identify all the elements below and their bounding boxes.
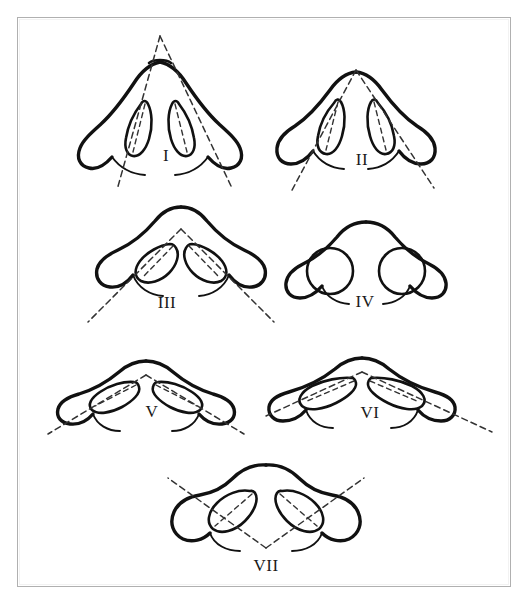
figure-5-label: V bbox=[146, 402, 159, 422]
figure-6-label: VI bbox=[361, 403, 380, 423]
figure-6-left-sill bbox=[306, 410, 333, 428]
nostril-diagram-canvas: .ink { fill:none; stroke:#111111; stroke… bbox=[0, 0, 530, 605]
figure-1-right-sill bbox=[175, 157, 208, 175]
figure-1-left-sill bbox=[112, 157, 145, 175]
figure-1-left-axis-line bbox=[117, 36, 160, 190]
figure-3-left-nostril bbox=[136, 244, 178, 283]
figure-4-left-outer-contour bbox=[286, 222, 366, 298]
figure-1-right-outer-contour bbox=[160, 62, 242, 168]
figure-5-left-outer-contour bbox=[58, 361, 146, 424]
figure-5-right-sill bbox=[172, 414, 199, 431]
figure-2-nostril-diagram bbox=[277, 70, 435, 192]
figure-6-right-sill bbox=[391, 410, 418, 428]
figure-1-label: I bbox=[163, 146, 169, 166]
figure-2-left-axis-line bbox=[291, 70, 356, 192]
figure-3-right-nostril bbox=[184, 244, 226, 283]
figure-7-right-sill bbox=[292, 533, 322, 551]
figure-6-left-outer-contour bbox=[269, 358, 362, 421]
figure-2-left-nostril bbox=[317, 99, 344, 154]
figure-2-label: II bbox=[356, 150, 368, 170]
figure-5-nostril-diagram bbox=[48, 361, 244, 434]
figure-5-left-axis-line bbox=[48, 375, 146, 434]
figure-7-left-sill bbox=[210, 533, 240, 551]
figure-6-left-nostril bbox=[299, 378, 356, 409]
figure-plate: .ink { fill:none; stroke:#111111; stroke… bbox=[0, 0, 530, 605]
figure-7-nostril-diagram bbox=[168, 465, 364, 551]
figure-4-right-nostril bbox=[379, 248, 425, 294]
figure-4-right-outer-contour bbox=[366, 222, 446, 298]
figure-3-label: III bbox=[158, 293, 176, 313]
figure-3-nostril-diagram bbox=[88, 207, 274, 322]
figure-5-right-axis-line bbox=[146, 375, 244, 434]
figure-1-right-nostril bbox=[168, 101, 194, 156]
figure-1-nostril-diagram bbox=[78, 36, 241, 190]
figure-7-label: VII bbox=[253, 556, 278, 576]
figure-5-left-sill bbox=[93, 414, 120, 431]
figure-6-right-axis-line bbox=[362, 372, 492, 432]
figure-4-label: IV bbox=[356, 292, 375, 312]
figure-4-left-nostril bbox=[307, 248, 353, 294]
figure-5-right-outer-contour bbox=[146, 361, 234, 424]
